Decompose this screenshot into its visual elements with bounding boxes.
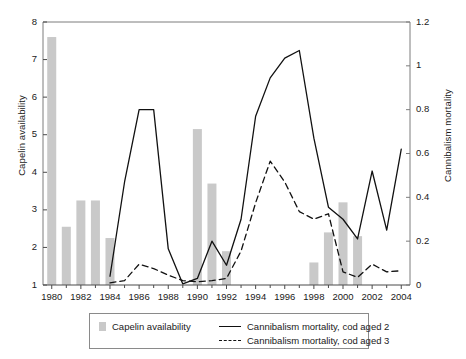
y-tick-label-left-1: 1 <box>1 279 37 290</box>
legend-item-capelin-availability: Capelin availability <box>99 321 191 332</box>
y-tick-label-right-0.6: 0.6 <box>416 147 450 158</box>
y-tick-label-left-5: 5 <box>1 128 37 139</box>
legend-label-cannibalism-age3: Cannibalism mortality, cod aged 3 <box>247 335 389 346</box>
bar-1999 <box>324 232 333 285</box>
x-tick-label-2004: 2004 <box>381 291 421 302</box>
bar-series-capelin-availability <box>47 37 362 285</box>
bar-1980 <box>47 37 56 285</box>
legend-item-cannibalism-age3: Cannibalism mortality, cod aged 3 <box>219 335 389 346</box>
y-tick-label-right-1.2: 1.2 <box>416 16 450 27</box>
legend-label-capelin-availability: Capelin availability <box>112 321 191 332</box>
y-tick-label-left-6: 6 <box>1 91 37 102</box>
bar-1984 <box>105 238 114 285</box>
y-tick-label-left-8: 8 <box>1 16 37 27</box>
y-axis-ticks-right <box>406 22 410 285</box>
chart-legend: Capelin availability Cannibalism mortali… <box>89 313 369 349</box>
dashed-line-icon <box>219 340 241 341</box>
y-tick-label-right-1: 1 <box>416 59 450 70</box>
legend-label-cannibalism-age2: Cannibalism mortality, cod aged 2 <box>247 321 389 332</box>
legend-item-cannibalism-age2: Cannibalism mortality, cod aged 2 <box>219 321 389 332</box>
y-tick-label-left-2: 2 <box>1 241 37 252</box>
y-tick-label-left-4: 4 <box>1 166 37 177</box>
bar-1982 <box>76 200 85 285</box>
y-tick-label-right-0.4: 0.4 <box>416 191 450 202</box>
y-tick-label-right-0.8: 0.8 <box>416 103 450 114</box>
bar-swatch-icon <box>99 322 106 331</box>
bar-1981 <box>62 227 71 285</box>
x-axis-ticks <box>52 285 402 289</box>
bar-1991 <box>207 184 216 285</box>
solid-line-icon <box>219 326 241 327</box>
chart-figure: Capelin availability Cannibalism mortali… <box>0 0 466 359</box>
y-tick-label-right-0.2: 0.2 <box>416 235 450 246</box>
y-tick-label-left-3: 3 <box>1 203 37 214</box>
plot-canvas <box>0 0 466 359</box>
y-tick-label-left-7: 7 <box>1 53 37 64</box>
bar-2001 <box>353 236 362 285</box>
y-tick-label-right-0: 0 <box>416 279 450 290</box>
bar-1983 <box>91 200 100 285</box>
bar-1990 <box>193 129 202 285</box>
y-axis-label-right: Cannibalism mortality <box>442 61 453 211</box>
y-axis-ticks-left <box>43 22 47 285</box>
bar-1998 <box>309 262 318 285</box>
